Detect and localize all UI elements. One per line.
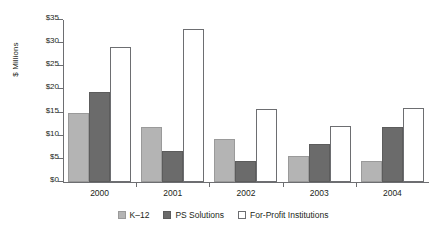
y-axis-tick-label: $5 — [50, 152, 59, 161]
y-axis-tick-label: $15 — [46, 106, 59, 115]
legend-swatch-icon — [238, 211, 246, 219]
y-axis-tick-label: $20 — [46, 82, 59, 91]
bar-group — [283, 20, 356, 182]
x-axis-label: 2004 — [362, 188, 422, 198]
bar-chart: $ Millions $0$5$10$15$20$25$30$35 200020… — [0, 0, 446, 243]
legend-label: K–12 — [130, 210, 150, 220]
y-axis-tick-label: $0 — [50, 175, 59, 184]
bar — [68, 113, 89, 182]
bar — [89, 92, 110, 182]
bar — [288, 156, 309, 182]
y-axis-title: $ Millions — [11, 10, 20, 110]
bar-group — [209, 20, 282, 182]
x-axis-label: 2001 — [143, 188, 203, 198]
y-axis-tick-label: $30 — [46, 36, 59, 45]
bar — [235, 161, 256, 182]
bar — [141, 127, 162, 182]
bar-group — [136, 20, 209, 182]
legend-item: For-Profit Institutions — [238, 210, 328, 220]
legend-label: PS Solutions — [175, 210, 224, 220]
legend-swatch-icon — [163, 211, 171, 219]
bar — [382, 127, 403, 182]
legend-item: K–12 — [118, 210, 150, 220]
x-axis-label: 2000 — [70, 188, 130, 198]
x-axis-tick-mark — [136, 183, 137, 187]
plot-area: $0$5$10$15$20$25$30$35 20002001200220032… — [63, 20, 429, 183]
bar — [256, 109, 277, 182]
bar — [403, 108, 424, 182]
bar — [183, 29, 204, 182]
chart-legend: K–12PS SolutionsFor-Profit Institutions — [0, 210, 446, 220]
bar — [330, 126, 351, 182]
y-axis-tick-label: $10 — [46, 129, 59, 138]
bar-group — [63, 20, 136, 182]
bar — [162, 151, 183, 182]
y-axis-tick-label: $35 — [46, 13, 59, 22]
x-axis-tick-mark — [209, 183, 210, 187]
legend-label: For-Profit Institutions — [250, 210, 328, 220]
x-axis-label: 2003 — [289, 188, 349, 198]
y-axis-tick-label: $25 — [46, 59, 59, 68]
bar — [309, 144, 330, 182]
legend-swatch-icon — [118, 211, 126, 219]
bar — [361, 161, 382, 182]
x-axis-line — [63, 182, 429, 183]
legend-item: PS Solutions — [163, 210, 224, 220]
x-axis-tick-mark — [283, 183, 284, 187]
x-axis-tick-mark — [356, 183, 357, 187]
x-axis-label: 2002 — [216, 188, 276, 198]
bar-group — [356, 20, 429, 182]
bar — [214, 139, 235, 183]
bar — [110, 47, 131, 182]
